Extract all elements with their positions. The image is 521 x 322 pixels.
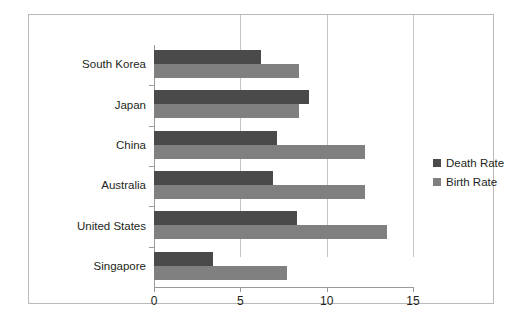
x-tick-label-10: 10 [307,294,347,308]
gridline-15 [413,15,414,257]
category-label: United States [36,220,146,233]
bar-group [154,166,413,206]
bar-birth-rate [154,266,287,280]
legend-label-birth-rate: Birth Rate [446,176,497,188]
category-label: Australia [36,179,146,192]
bar-birth-rate [154,64,299,78]
x-axis-line [154,287,414,288]
category-label: Singapore [36,260,146,273]
bar-birth-rate [154,225,387,239]
legend-item-death-rate: Death Rate [433,153,521,172]
bar-death-rate [154,252,213,266]
bar-birth-rate [154,104,299,118]
x-tick-label-5: 5 [220,294,260,308]
x-tick-label-0: 0 [134,294,174,308]
bar-group [154,85,413,125]
bar-death-rate [154,131,277,145]
x-tick-label-15: 15 [393,294,433,308]
legend-swatch-birth-rate [433,178,441,186]
bar-group [154,206,413,246]
chart-border: 051015 South KoreaJapanChinaAustraliaUni… [28,14,494,304]
bar-death-rate [154,90,309,104]
x-tick-0 [154,287,155,292]
bar-death-rate [154,50,261,64]
bar-group [154,247,413,287]
bar-birth-rate [154,185,365,199]
bar-group [154,126,413,166]
bar-death-rate [154,171,273,185]
bar-death-rate [154,211,297,225]
bar-group [154,45,413,85]
x-tick-15 [413,287,414,292]
chart-legend: Death Rate Birth Rate [433,153,521,191]
category-label: China [36,139,146,152]
bar-birth-rate [154,145,365,159]
legend-swatch-death-rate [433,159,441,167]
x-tick-5 [240,287,241,292]
legend-label-death-rate: Death Rate [446,157,504,169]
chart-figure: 051015 South KoreaJapanChinaAustraliaUni… [0,0,521,322]
category-label: South Korea [36,58,146,71]
x-tick-10 [327,287,328,292]
category-labels: South KoreaJapanChinaAustraliaUnited Sta… [34,45,146,287]
plot-area [154,45,413,287]
legend-item-birth-rate: Birth Rate [433,172,521,191]
category-label: Japan [36,99,146,112]
